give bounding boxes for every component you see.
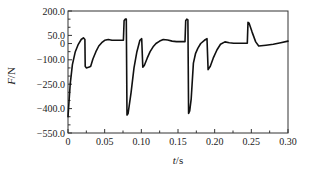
x-axis-label: t/s (173, 154, 183, 166)
plot-border (68, 11, 288, 133)
force-series-line (68, 19, 288, 117)
y-tick-label: −550.0 (37, 128, 65, 139)
y-axis-ticks: 200.050.00−100.0−250.0−400.0−550.0 (37, 6, 72, 139)
x-tick-label: 0 (66, 136, 71, 147)
x-axis-ticks: 00.050.100.150.200.250.30 (66, 129, 297, 147)
x-tick-label: 0.25 (243, 136, 261, 147)
y-tick-label: −400.0 (37, 103, 65, 114)
x-tick-label: 0.10 (133, 136, 151, 147)
force-time-chart: 200.050.00−100.0−250.0−400.0−550.0 00.05… (0, 0, 316, 176)
plot-frame (68, 11, 288, 133)
x-axis-unit: /s (176, 154, 183, 166)
x-tick-label: 0.20 (206, 136, 224, 147)
y-axis-label: F/N (5, 67, 17, 86)
y-tick-label: 200.0 (43, 6, 66, 17)
y-axis-unit: /N (5, 67, 17, 78)
x-tick-label: 0.05 (96, 136, 114, 147)
x-tick-label: 0.15 (169, 136, 187, 147)
x-tick-label: 0.30 (279, 136, 297, 147)
y-tick-label: −250.0 (37, 79, 65, 90)
y-tick-label: −100.0 (37, 54, 65, 65)
y-tick-label: 0 (60, 38, 65, 49)
